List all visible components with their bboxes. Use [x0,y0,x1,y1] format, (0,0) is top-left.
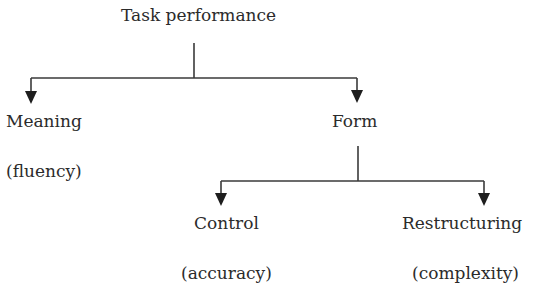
arrow-down-icon [25,91,37,104]
fluency-sublabel: (fluency) [6,163,82,180]
root-node-label: Task performance [121,7,276,24]
complexity-sublabel: (complexity) [412,265,519,282]
meaning-node-label: Meaning [6,113,82,130]
task-performance-diagram: Task performance Meaning (fluency) Form … [0,0,543,305]
arrow-down-icon [351,90,363,103]
control-node-label: Control [194,215,259,232]
restructuring-node-label: Restructuring [402,215,522,232]
form-node-label: Form [332,113,377,130]
accuracy-sublabel: (accuracy) [181,265,272,282]
connector-lines [0,0,543,305]
arrow-down-icon [215,193,227,206]
arrow-down-icon [478,193,490,206]
